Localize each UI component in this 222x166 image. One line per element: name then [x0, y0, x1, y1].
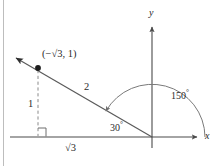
terminal-point-label: (−√3, 1) — [42, 49, 76, 60]
reference-angle-label: 30° — [110, 121, 123, 133]
point-label-close-paren: ) — [73, 48, 77, 59]
hypotenuse-length-label: 2 — [84, 82, 89, 93]
adjacent-length-label: √3 — [65, 143, 76, 154]
y-axis-label: y — [149, 8, 153, 18]
standard-angle-degree-symbol: ° — [186, 88, 189, 97]
opposite-length-label: 1 — [28, 99, 33, 110]
right-angle-marker — [38, 128, 46, 137]
terminal-point-dot — [35, 65, 41, 71]
geometry-figure: y x (−√3, 1) 2 1 √3 30° 150° — [0, 0, 222, 166]
standard-angle-label: 150° — [171, 89, 189, 101]
standard-angle-value: 150 — [171, 90, 186, 101]
reference-angle-value: 30 — [110, 122, 120, 133]
reference-angle-degree-symbol: ° — [120, 120, 123, 129]
adjacent-radicand: 3 — [71, 142, 76, 153]
diagram-canvas — [0, 0, 222, 166]
x-axis-label: x — [205, 131, 209, 141]
